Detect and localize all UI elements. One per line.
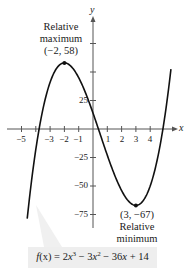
x-axis-arrow-icon — [172, 127, 178, 132]
formula-part: (x) = 2 — [39, 251, 68, 262]
relative-min-point — [134, 203, 138, 207]
formula-pointer — [36, 205, 62, 247]
formula-part: + 14 — [127, 251, 149, 262]
relative-min-title-1: Relative — [117, 221, 158, 233]
x-tick-label: 1 — [106, 135, 111, 144]
y-axis-label: y — [90, 5, 94, 15]
x-tick-label: −5 — [16, 135, 26, 144]
x-tick-label: 2 — [120, 135, 125, 144]
relative-min-coords: (3, −67) — [117, 209, 158, 221]
x-tick-label: −1 — [73, 135, 83, 144]
relative-max-annotation: Relative maximum (−2, 58) — [40, 21, 83, 57]
relative-max-coords: (−2, 58) — [40, 45, 83, 57]
x-tick-label: −2 — [59, 135, 69, 144]
relative-max-point — [62, 61, 66, 65]
y-axis-arrow-icon — [91, 16, 96, 22]
relative-min-title-2: minimum — [117, 233, 158, 245]
function-formula: f(x) = 2x3 − 3x2 − 36x + 14 — [28, 251, 157, 262]
relative-max-title-2: maximum — [40, 33, 83, 45]
function-graph — [0, 0, 187, 275]
relative-min-annotation: (3, −67) Relative minimum — [117, 209, 158, 245]
x-tick-label: 4 — [148, 135, 153, 144]
y-tick-label: −25 — [74, 153, 88, 162]
x-axis-label: x — [179, 123, 183, 133]
x-tick-label: 3 — [134, 135, 139, 144]
formula-part: − 3 — [76, 251, 92, 262]
relative-max-title-1: Relative — [40, 21, 83, 33]
formula-box: f(x) = 2x3 − 3x2 − 36x + 14 — [28, 247, 157, 268]
x-tick-label: −3 — [44, 135, 54, 144]
y-tick-label: 25 — [79, 96, 88, 105]
y-tick-label: −50 — [74, 181, 88, 190]
formula-part: − 36 — [101, 251, 123, 262]
y-tick-label: −75 — [74, 210, 88, 219]
